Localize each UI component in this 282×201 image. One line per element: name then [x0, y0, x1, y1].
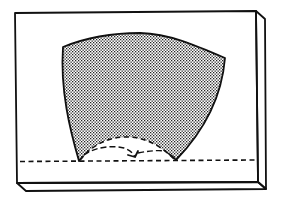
slab-diagram — [0, 0, 282, 201]
